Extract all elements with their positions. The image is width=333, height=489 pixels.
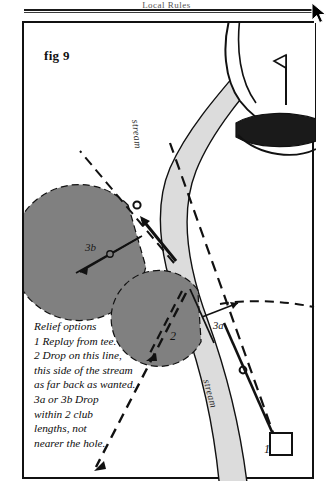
callout-tee-1: 1 bbox=[264, 442, 270, 457]
relief-line: 3a or 3b Drop bbox=[34, 392, 184, 407]
relief-line: this side of the stream bbox=[34, 363, 184, 378]
header-rule bbox=[24, 9, 316, 11]
bunker-shape bbox=[236, 113, 316, 146]
figure-frame: fig 9 stream stream 1 2 3a 3b Relief opt… bbox=[22, 21, 314, 479]
callout-drop-zone-3a: 3a bbox=[213, 320, 224, 331]
page-root: Local Rules bbox=[0, 0, 333, 489]
callout-drop-zone-3b: 3b bbox=[85, 241, 96, 253]
relief-line: Relief options bbox=[34, 319, 184, 334]
ball-marker-crossing bbox=[133, 201, 140, 208]
header-rule-secondary bbox=[24, 12, 316, 13]
relief-line: 1 Replay from tee. bbox=[34, 334, 184, 349]
tee-box bbox=[270, 433, 292, 455]
relief-line: nearer the hole. bbox=[34, 436, 184, 451]
relief-line: within 2 club bbox=[34, 407, 184, 422]
relief-line: 2 Drop on this line, bbox=[34, 348, 184, 363]
relief-line: as far back as wanted. bbox=[34, 377, 184, 392]
relief-options-text: Relief options 1 Replay from tee. 2 Drop… bbox=[34, 319, 184, 450]
figure-caption-label: fig 9 bbox=[44, 48, 70, 64]
drop-zone-3a-radius-arrow bbox=[202, 302, 238, 317]
running-head: Local Rules bbox=[0, 0, 333, 8]
relief-line: lengths, not bbox=[34, 421, 184, 436]
